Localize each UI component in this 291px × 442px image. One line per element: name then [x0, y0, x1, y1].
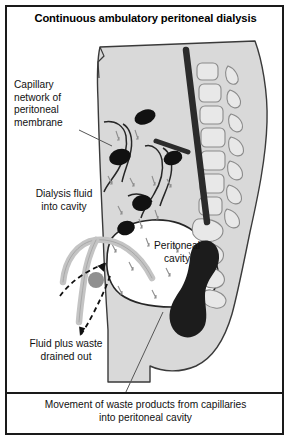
label-peritoneal-cavity: Peritoneal cavity	[140, 240, 214, 265]
catheter-junction-clamp	[88, 272, 104, 288]
label-capillary-network: Capillary network of peritoneal membrane	[14, 79, 100, 129]
anatomy-illustration	[0, 0, 291, 442]
figure-caption: Movement of waste products from capillar…	[14, 399, 277, 425]
figure-root: Continuous ambulatory peritoneal dialysi…	[0, 0, 291, 442]
label-dialysis-fluid-into-cavity: Dialysis fluid into cavity	[12, 188, 116, 213]
label-fluid-plus-waste-drained-out: Fluid plus waste drained out	[10, 338, 122, 363]
